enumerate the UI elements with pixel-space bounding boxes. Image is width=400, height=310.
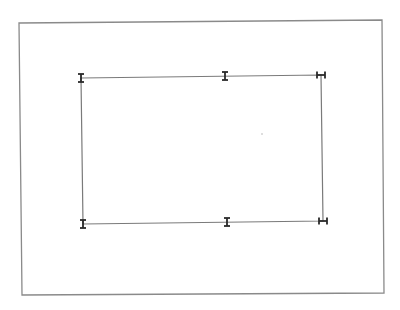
- resize-handles: [78, 72, 327, 229]
- selected-rectangle[interactable]: [81, 75, 323, 224]
- outer-frame: [19, 20, 384, 295]
- speck-dot: [261, 133, 263, 135]
- drawing-canvas[interactable]: [0, 0, 400, 310]
